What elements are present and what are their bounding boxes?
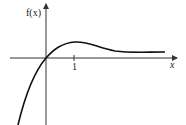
x-tick-label-1: 1 xyxy=(72,61,77,72)
y-axis-label: f(x) xyxy=(26,7,41,19)
function-graph: 1 f(x) x xyxy=(0,0,186,125)
x-axis-label: x xyxy=(169,59,175,70)
function-curve xyxy=(18,42,165,125)
